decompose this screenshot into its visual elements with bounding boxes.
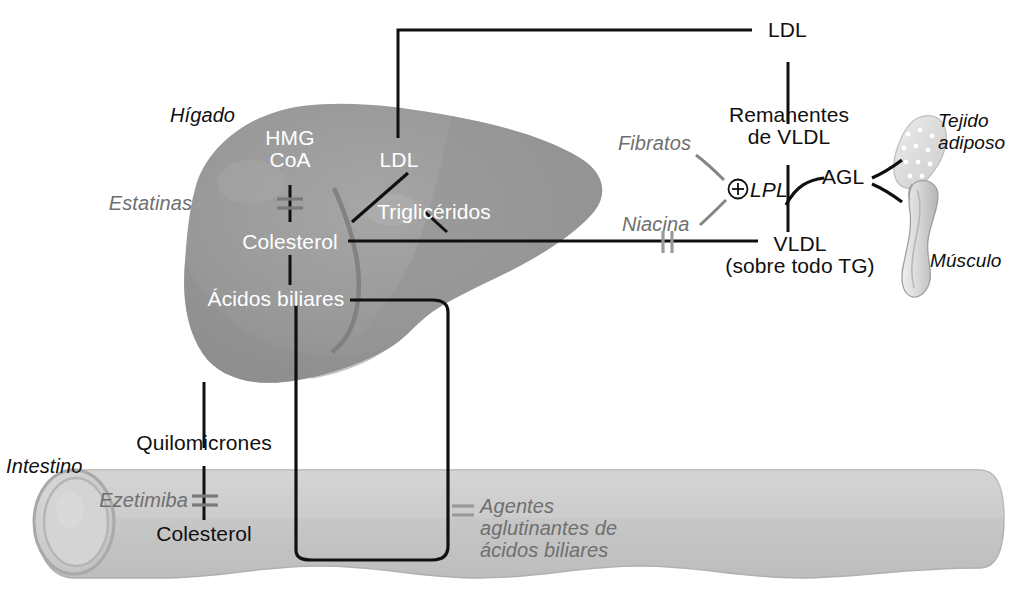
organ-label-muscle: Músculo (930, 250, 1001, 271)
arrow-niacina-to-lpl (700, 200, 726, 225)
node-bile-acids: Ácidos biliares (208, 287, 345, 311)
lipid-metabolism-diagram: Hígado Intestino Tejido adiposo Músculo … (0, 0, 1017, 607)
node-hmgcoa-line1: HMG (265, 126, 314, 150)
node-cholesterol-intestine: Colesterol (156, 522, 252, 546)
organ-label-intestine: Intestino (6, 455, 83, 477)
drug-label-resinas-line1: Agentes (480, 495, 554, 517)
organ-label-adipose-line2: adiposo (938, 132, 1005, 153)
node-triglycerides: Triglicéridos (377, 200, 491, 224)
node-remnants-line1: Remanentes (729, 103, 849, 127)
node-agl: AGL (822, 165, 864, 189)
node-vldl-line1: VLDL (774, 232, 827, 256)
plus-circle-icon (729, 180, 748, 199)
drug-label-resinas-line3: ácidos biliares (480, 539, 608, 561)
node-lpl: LPL (750, 178, 788, 202)
muscle-icon (902, 181, 938, 297)
node-ldl-liver: LDL (380, 148, 419, 172)
node-hmgcoa-line2: CoA (269, 148, 310, 172)
drug-label-estatinas: Estatinas (109, 192, 192, 214)
arrow-lpl-to-agl (786, 178, 824, 205)
organ-label-liver: Hígado (170, 104, 235, 126)
organ-label-adipose-line1: Tejido (938, 110, 989, 131)
arrow-agl-to-muscle (872, 184, 902, 202)
drug-label-fibratos: Fibratos (618, 132, 691, 154)
node-remnants-line2: de VLDL (748, 125, 830, 149)
drug-label-resinas-line2: aglutinantes de (480, 517, 617, 539)
arrow-fibratos-to-lpl (696, 155, 724, 180)
node-vldl-line2: (sobre todo TG) (725, 254, 874, 278)
node-ldl-plasma: LDL (768, 18, 807, 42)
node-chylomicrons: Quilomicrones (136, 431, 272, 455)
drug-label-niacina: Niacina (622, 213, 689, 235)
drug-label-ezetimiba: Ezetimiba (99, 489, 188, 511)
node-cholesterol-liver: Colesterol (242, 230, 338, 254)
